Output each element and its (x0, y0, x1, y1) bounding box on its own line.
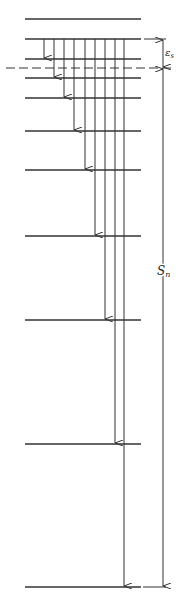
labels: εs Sn (157, 47, 174, 279)
epsilon-label: εs (165, 47, 174, 60)
energy-level-diagram: εs Sn (0, 0, 180, 602)
s-n-label: Sn (157, 264, 170, 279)
transition-arrows (44, 39, 124, 586)
